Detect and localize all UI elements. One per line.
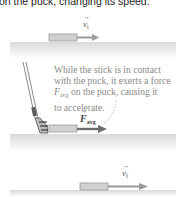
velocity-arrow-initial [77,34,99,41]
force-label-subscript: avg [87,119,96,125]
note-line-1: While the stick is in contact [54,64,194,75]
v-subscript: i [87,24,89,30]
label-v-initial: →vi [83,19,89,30]
ice-surface-3 [10,190,176,197]
ice-surface-2 [10,134,176,152]
vector-arrow-symbol: → [122,162,129,170]
explanation-note: While the stick is in contact with the p… [54,64,194,113]
label-force-avg: →Favg [80,113,96,125]
force-arrow [77,125,107,133]
v-subscript: f [126,173,128,179]
velocity-arrow-final [108,183,148,190]
note-line-2: with the puck, it exerts a force [54,75,194,86]
puck-1 [49,34,77,41]
ice-surface-1 [10,42,176,58]
force-subscript: avg [60,92,69,98]
note-line-3-rest: on the puck, causing it [69,86,158,97]
puck-3 [80,183,108,190]
hockey-stick [23,62,48,133]
note-line-3: Favg on the puck, causing it [54,86,194,101]
vector-arrow-symbol: → [80,107,87,115]
puck-2 [49,125,77,132]
label-v-final: →vf [122,168,128,179]
vector-arrow-symbol: → [83,13,90,21]
note-line-4: to accelerate. [54,102,194,113]
